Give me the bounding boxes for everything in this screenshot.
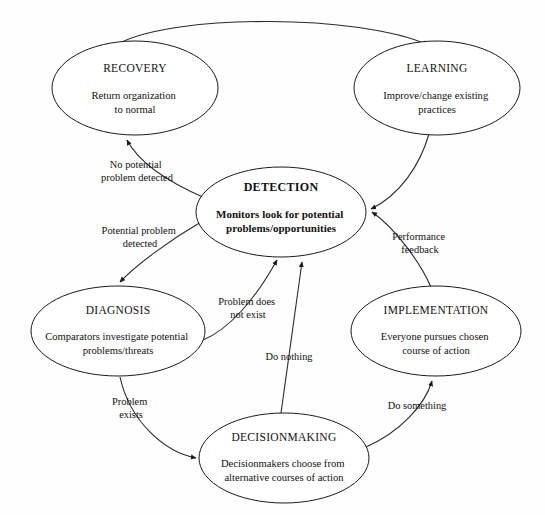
node-learning-ellipse: [354, 41, 520, 135]
edge-label-problem-does-not-exist: Problem does not exist: [218, 296, 277, 320]
edge-label-potential-problem-detected: Potential problem detected: [102, 225, 179, 249]
edge-detection-to-recovery: No potential problem detected: [101, 140, 205, 198]
node-decisionmaking[interactable]: DECISIONMAKING Decisionmakers choose fro…: [199, 413, 369, 503]
node-recovery[interactable]: RECOVERY Return organization to normal: [52, 41, 218, 135]
node-learning[interactable]: LEARNING Improve/change existing practic…: [354, 41, 520, 135]
node-diagnosis[interactable]: DIAGNOSIS Comparators investigate potent…: [31, 286, 205, 376]
edge-learning-to-detection: [371, 134, 429, 209]
node-detection[interactable]: DETECTION Monitors look for potential pr…: [196, 167, 366, 257]
node-diagnosis-title: DIAGNOSIS: [86, 304, 151, 316]
node-recovery-title: RECOVERY: [103, 62, 167, 74]
edge-diagnosis-to-detection: Problem does not exist: [203, 260, 278, 340]
node-recovery-ellipse: [52, 41, 218, 135]
node-learning-title: LEARNING: [406, 62, 467, 74]
edge-decisionmaking-to-implementation: Do something: [366, 381, 446, 447]
node-implementation[interactable]: IMPLEMENTATION Everyone pursues chosen c…: [351, 286, 521, 376]
edge-decisionmaking-to-detection: Do nothing: [265, 262, 312, 413]
edge-diagnosis-to-decisionmaking: Problem exists: [112, 377, 196, 458]
edge-recovery-to-learning: [120, 21, 428, 45]
node-implementation-title: IMPLEMENTATION: [384, 304, 489, 316]
edge-implementation-to-detection: Performance feedback: [372, 212, 448, 287]
edge-label-do-nothing: Do nothing: [265, 351, 312, 362]
edge-detection-to-diagnosis: Potential problem detected: [102, 222, 201, 282]
diagram-canvas: No potential problem detected Potential …: [0, 0, 545, 515]
node-decisionmaking-title: DECISIONMAKING: [231, 431, 336, 443]
flowchart-svg: No potential problem detected Potential …: [0, 0, 545, 515]
node-detection-title: DETECTION: [244, 180, 319, 194]
edge-label-do-something: Do something: [388, 400, 447, 411]
edge-label-no-potential-problem: No potential problem detected: [101, 159, 174, 183]
edge-label-performance-feedback: Performance feedback: [392, 231, 448, 255]
edge-label-problem-exists: Problem exists: [112, 396, 150, 420]
